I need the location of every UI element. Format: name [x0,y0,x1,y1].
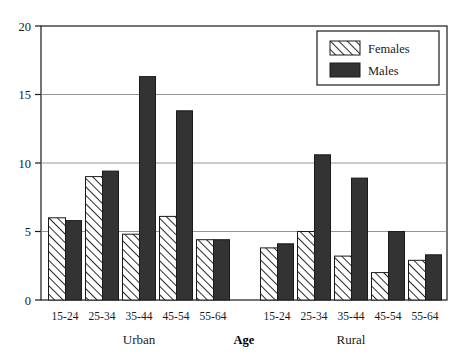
cat-label-rural-45-54: 45-54 [375,310,402,322]
cat-label-rural-15-24: 15-24 [264,310,291,322]
bar-rural-15-24-females [261,248,278,300]
cat-label-urban-55-64: 55-64 [200,310,227,322]
bar-rural-25-34-females [298,232,315,301]
y-tick-label-5: 5 [25,225,31,239]
bar-urban-45-54-males [177,111,193,300]
bar-urban-15-24-males [66,221,82,300]
bar-rural-25-34-males [315,155,331,300]
cat-label-rural-55-64: 55-64 [412,310,439,322]
bar-rural-35-44-females [335,256,352,300]
group-label-urban: Urban [123,332,156,347]
x-category-labels-rural: 15-24 25-34 35-44 45-54 55-64 [264,310,439,322]
bar-rural-55-64-females [409,260,426,300]
bar-urban-55-64-females [197,240,214,300]
y-tick-label-20: 20 [19,20,32,34]
y-tick-label-10: 10 [19,157,32,171]
legend-label-males: Males [368,64,399,78]
chart-canvas: 20 15 10 5 0 [0,0,464,361]
bar-urban-25-34-females [86,177,103,300]
cat-label-urban-15-24: 15-24 [52,310,79,322]
bar-urban-35-44-females [123,234,140,300]
y-tick-label-15: 15 [19,88,32,102]
cat-label-urban-35-44: 35-44 [126,310,153,322]
x-category-labels-urban: 15-24 25-34 35-44 45-54 55-64 [52,310,227,322]
cat-label-urban-25-34: 25-34 [89,310,116,322]
legend-swatch-females [330,41,360,55]
cat-label-urban-45-54: 45-54 [163,310,190,322]
bar-urban-25-34-males [103,171,119,300]
legend-label-females: Females [368,42,410,56]
bar-urban-45-54-females [160,216,177,300]
bar-urban-15-24-females [49,218,66,300]
x-axis-title: Age [234,333,255,347]
cat-label-rural-25-34: 25-34 [301,310,328,322]
bar-urban-35-44-males [140,77,156,300]
legend-swatch-males [330,63,360,77]
bar-urban-55-64-males [214,240,230,300]
bar-chart: 20 15 10 5 0 [0,0,464,361]
bar-rural-45-54-males [389,232,405,301]
bar-rural-15-24-males [278,244,294,300]
bar-rural-35-44-males [352,178,368,300]
legend: Females Males [317,31,439,85]
bar-rural-45-54-females [372,273,389,300]
bar-rural-55-64-males [426,255,442,300]
cat-label-rural-35-44: 35-44 [338,310,365,322]
group-label-rural: Rural [337,332,366,347]
y-tick-label-0: 0 [25,294,31,308]
